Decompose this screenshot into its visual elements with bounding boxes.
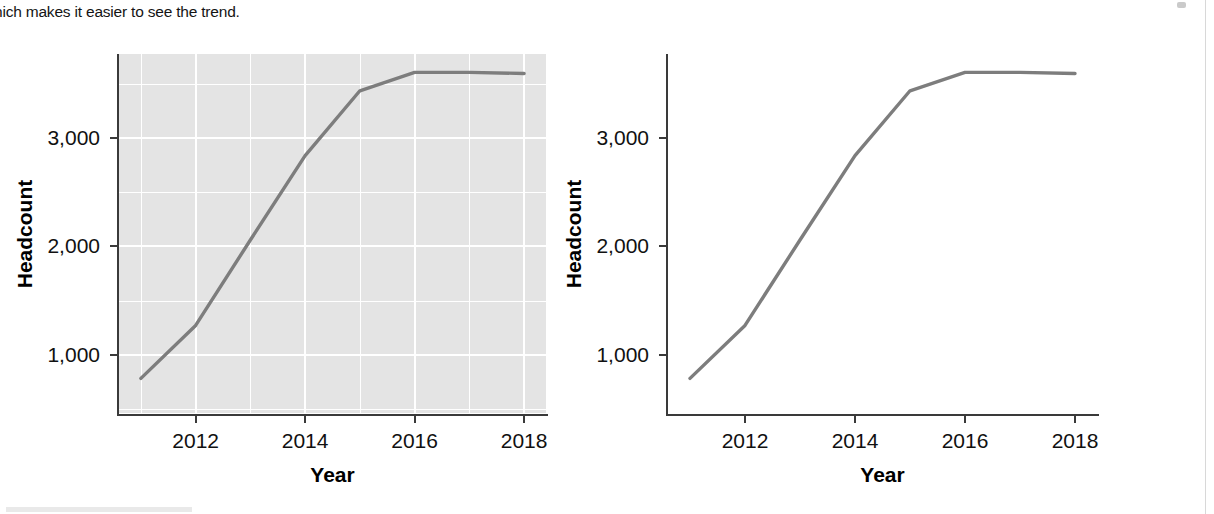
x-tick-label: 2018 — [1052, 429, 1099, 453]
x-tick-label: 2018 — [501, 429, 548, 453]
y-axis-title: Headcount — [13, 179, 37, 288]
gridline-horizontal-major — [119, 245, 546, 247]
x-tick-mark — [854, 416, 856, 423]
x-tick-mark — [744, 416, 746, 423]
plot-panel-gridded — [119, 54, 546, 413]
x-tick-mark — [523, 416, 525, 423]
x-tick-label: 2012 — [172, 429, 219, 453]
x-tick-mark — [414, 416, 416, 423]
figure-chart-without-gridlines: 1,0002,0003,000 2012201420162018 Headcou… — [600, 0, 1214, 514]
gridline-vertical-major — [304, 54, 306, 413]
x-tick-label: 2012 — [722, 429, 769, 453]
gridline-horizontal-major — [119, 137, 546, 139]
gridline-vertical-minor — [360, 54, 361, 413]
gridline-vertical-major — [523, 54, 525, 413]
gridline-vertical-minor — [469, 54, 470, 413]
y-tick-label: 3,000 — [12, 126, 100, 150]
y-tick-label: 1,000 — [561, 343, 649, 367]
gridline-vertical-minor — [250, 54, 251, 413]
y-tick-mark — [659, 137, 666, 139]
y-tick-mark — [659, 245, 666, 247]
x-axis-title: Year — [310, 463, 354, 487]
y-tick-label: 1,000 — [12, 343, 100, 367]
y-tick-mark — [110, 137, 117, 139]
y-tick-mark — [659, 354, 666, 356]
x-tick-label: 2014 — [282, 429, 329, 453]
y-axis-line — [666, 54, 668, 414]
gridline-horizontal-major — [119, 354, 546, 356]
gridline-vertical-major — [195, 54, 197, 413]
x-tick-mark — [964, 416, 966, 423]
x-axis-line — [666, 414, 1099, 416]
page-bottom-artifact — [6, 507, 192, 512]
y-axis-line — [117, 54, 119, 414]
plot-panel-plain — [668, 54, 1097, 413]
gridline-horizontal-minor — [119, 192, 546, 193]
x-tick-mark — [195, 416, 197, 423]
page-edge-line — [1205, 0, 1206, 514]
gridline-horizontal-minor — [119, 409, 546, 410]
x-axis-line — [117, 414, 548, 416]
corner-mark — [1177, 2, 1186, 8]
gridline-vertical-minor — [141, 54, 142, 413]
gridline-horizontal-minor — [119, 84, 546, 85]
y-tick-label: 3,000 — [561, 126, 649, 150]
y-tick-mark — [110, 245, 117, 247]
y-axis-title: Headcount — [562, 179, 586, 288]
x-tick-mark — [1074, 416, 1076, 423]
figure-chart-with-gridlines: 1,0002,0003,000 2012201420162018 Headcou… — [0, 0, 600, 514]
x-tick-mark — [304, 416, 306, 423]
x-axis-title: Year — [860, 463, 904, 487]
gridline-horizontal-minor — [119, 301, 546, 302]
y-tick-mark — [110, 354, 117, 356]
x-tick-label: 2014 — [832, 429, 879, 453]
gridline-vertical-major — [414, 54, 416, 413]
x-tick-label: 2016 — [942, 429, 989, 453]
x-tick-label: 2016 — [391, 429, 438, 453]
